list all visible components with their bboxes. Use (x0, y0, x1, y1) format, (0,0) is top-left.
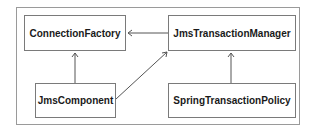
edge-jmscomponent-to-connectionfactory (72, 53, 78, 83)
edges-layer (0, 0, 316, 133)
edge-jmscomponent-to-jmstm (116, 52, 167, 99)
edge-springpolicy-to-jmstm (228, 53, 234, 83)
edge-jmstm-to-connectionfactory (128, 30, 168, 36)
